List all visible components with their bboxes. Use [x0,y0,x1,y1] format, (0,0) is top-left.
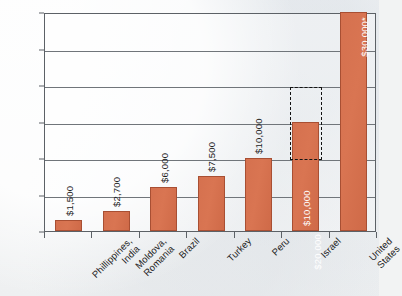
bar-value-label: $6,000 [158,153,169,183]
gridline [45,87,375,88]
bar: $30,000* [340,12,367,231]
bar: $7,500 [198,176,225,231]
bar: $1,500 [55,220,82,231]
x-axis-tick-mark [91,232,92,238]
bar: $6,000 [150,187,177,231]
x-axis-category-label: Moldova,Romania [134,236,177,279]
gridline [45,51,375,52]
x-axis-category-label: UnitedStates [368,236,402,271]
bar-value-label: $10,000 [253,118,264,154]
gridline [45,124,375,125]
x-axis-category-label: Brazil [177,236,202,261]
x-axis-category-label: Peru [270,236,292,258]
plot-area: $1,500$2,700$6,000$7,500$10,000$20,000$1… [44,13,376,232]
x-axis-tick-mark [44,232,45,238]
bar-value-label: $1,500 [63,186,74,216]
x-axis-tick-mark [329,232,330,238]
bar-value-label: $30,000* [359,17,370,57]
x-axis-tick-mark [139,232,140,238]
bar-value-label: $2,700 [111,177,122,207]
x-axis-category-label: Turkey [226,236,254,264]
category-label-line1: Peru [270,236,292,258]
bar: $2,700 [103,211,130,231]
bar: $10,000 [245,158,272,231]
bar-value-label: $7,500 [206,142,217,172]
range-annotation-box [290,87,322,160]
x-axis-tick-mark [186,232,187,238]
x-axis-tick-mark [234,232,235,238]
x-axis-tick-mark [376,232,377,238]
category-label-line1: Brazil [177,236,202,261]
bar-value-label-lower: $10,000 [300,190,311,226]
category-label-line1: Turkey [226,236,254,264]
